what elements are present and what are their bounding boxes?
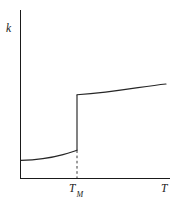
x-axis-label: T xyxy=(161,182,169,194)
x-axis-tick-label-subscript: M xyxy=(76,190,85,199)
curve-lower-branch xyxy=(21,150,77,160)
y-axis-label: k xyxy=(6,22,12,34)
curve-upper-branch xyxy=(77,84,166,95)
thermal-conductivity-plot: k T M T xyxy=(0,0,180,201)
figure-container: k T M T xyxy=(0,0,180,201)
